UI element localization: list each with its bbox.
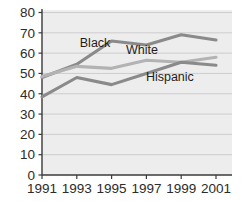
x-tick-label-1999: 1999 (166, 181, 196, 196)
series-label-hispanic: Hispanic (146, 70, 194, 84)
series-label-white: White (126, 43, 158, 57)
plot-background-group (42, 10, 232, 175)
line-chart: BlackWhiteHispanic 01020304050607080 199… (0, 0, 242, 201)
chart-canvas: BlackWhiteHispanic 01020304050607080 199… (0, 0, 242, 201)
x-tick-labels-group: 199119931995199719992001 (27, 181, 231, 196)
y-tick-label-80: 80 (20, 5, 35, 20)
y-tick-label-60: 60 (20, 46, 35, 61)
y-axis-group (39, 9, 43, 175)
x-axis-group (42, 175, 232, 179)
plot-background (42, 10, 232, 175)
y-tick-labels-group: 01020304050607080 (20, 5, 35, 183)
y-tick-label-40: 40 (20, 87, 35, 102)
y-tick-label-30: 30 (20, 107, 35, 122)
x-tick-label-1995: 1995 (97, 181, 127, 196)
x-tick-label-1997: 1997 (131, 181, 161, 196)
y-tick-label-20: 20 (20, 127, 35, 142)
x-tick-label-2001: 2001 (201, 181, 231, 196)
x-tick-label-1993: 1993 (62, 181, 92, 196)
y-tick-label-10: 10 (20, 147, 35, 162)
y-tick-label-70: 70 (20, 26, 35, 41)
x-tick-label-1991: 1991 (27, 181, 57, 196)
y-tick-label-50: 50 (20, 66, 35, 81)
series-label-black: Black (80, 36, 111, 50)
